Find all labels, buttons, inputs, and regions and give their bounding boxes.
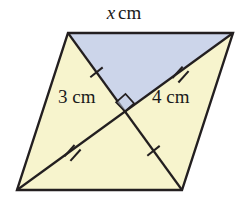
label-right-half-diagonal: 4 cm xyxy=(152,87,189,106)
geometry-figure: xcm 3 cm 4 cm xyxy=(0,0,248,199)
parallelogram-diagram-svg xyxy=(0,0,248,199)
label-left-half-diagonal: 3 cm xyxy=(58,87,95,106)
label-top-side-unit: cm xyxy=(118,2,141,23)
label-top-side: xcm xyxy=(107,3,142,22)
label-top-side-variable: x xyxy=(107,2,115,23)
